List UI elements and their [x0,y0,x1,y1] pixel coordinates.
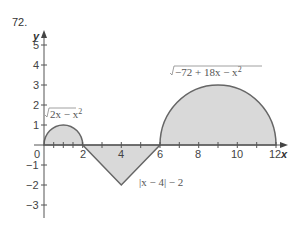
region-large-semicircle [160,85,276,145]
function-label-2: |x − 4| − 2 [139,176,183,188]
svg-text:3: 3 [33,79,39,91]
x-tick-labels: 0 2 4 6 8 10 12 [34,148,281,160]
y-axis-arrow-icon [41,30,47,38]
function-label-1: 2x − x2 [45,107,82,120]
svg-text:2: 2 [33,99,39,111]
svg-text:−1: −1 [26,159,39,171]
svg-text:0: 0 [34,148,40,160]
chart: y x 5 4 3 2 1 −1 −2 −3 0 2 4 6 8 10 12 2… [0,0,302,228]
function-label-3: −72 + 18x − x2 [170,65,262,78]
region-small-semicircle [44,125,83,145]
svg-text:4: 4 [118,148,124,160]
svg-text:−72 + 18x − x2: −72 + 18x − x2 [175,65,242,78]
svg-text:8: 8 [195,148,201,160]
svg-text:−3: −3 [26,199,39,211]
svg-text:−2: −2 [26,179,39,191]
svg-text:12: 12 [269,148,281,160]
svg-text:10: 10 [231,148,243,160]
svg-text:2x − x2: 2x − x2 [50,107,82,120]
svg-text:5: 5 [33,39,39,51]
svg-text:4: 4 [33,59,39,71]
svg-text:1: 1 [33,119,39,131]
filled-regions [44,85,276,185]
svg-text:6: 6 [157,148,163,160]
svg-text:2: 2 [80,148,86,160]
y-tick-labels: 5 4 3 2 1 −1 −2 −3 [26,39,39,211]
